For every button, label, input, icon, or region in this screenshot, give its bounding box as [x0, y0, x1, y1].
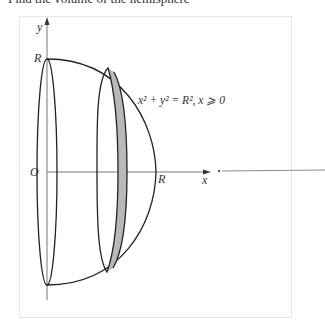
- hemisphere-diagram: y R O R x x² + y² = R², x ⩾ 0: [0, 0, 325, 333]
- y-axis-label: y: [36, 20, 43, 34]
- circle-equation: x² + y² = R², x ⩾ 0: [137, 94, 225, 107]
- origin-label: O: [30, 165, 39, 179]
- x-axis-label: x: [201, 173, 208, 187]
- radius-label-right: R: [157, 172, 166, 186]
- shaded-slice: [107, 68, 127, 272]
- y-axis-arrow-icon: [45, 17, 50, 25]
- radius-label-top: R: [33, 51, 42, 65]
- pointer-dot: [218, 170, 220, 172]
- pointer-line: [222, 170, 325, 171]
